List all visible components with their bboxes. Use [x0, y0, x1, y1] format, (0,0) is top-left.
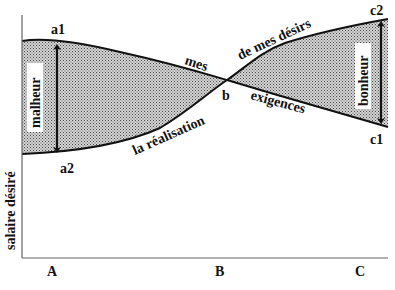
point-c1: c1 — [370, 132, 383, 147]
bonheur-label: bonheur — [356, 55, 371, 106]
x-tick-B: B — [215, 264, 224, 279]
x-tick-C: C — [355, 264, 365, 279]
point-a2: a2 — [60, 161, 74, 176]
point-b: b — [222, 88, 230, 103]
y-axis-label: salaire désiré — [3, 171, 18, 250]
point-c2: c2 — [370, 3, 383, 18]
x-tick-A: A — [47, 264, 58, 279]
diagram: malheur bonheur a1 a2 b c2 c1 mes exigen… — [0, 0, 395, 290]
malheur-label: malheur — [28, 77, 43, 128]
point-a1: a1 — [51, 22, 65, 37]
